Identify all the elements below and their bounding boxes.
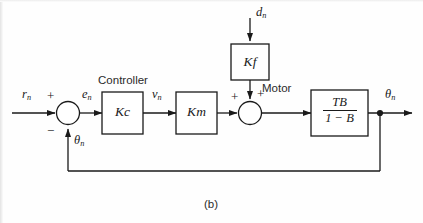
plant-denominator: 1 − B xyxy=(311,111,368,125)
disturbance-input-label: dn xyxy=(256,6,266,19)
error-summing-junction-circle xyxy=(57,102,80,125)
plant-transfer-function: TB 1 − B xyxy=(311,96,368,125)
plant-numerator: TB xyxy=(311,96,368,110)
controller-output-label: vn xyxy=(152,88,162,101)
motor-gain-label: Km xyxy=(176,105,217,119)
reference-input-label: rn xyxy=(22,88,31,101)
disturbance-gain-label: Kf xyxy=(231,55,269,69)
junction1-minus-sign: − xyxy=(47,124,54,137)
figure-container: rn + − en θn Controller Kc vn Km dn Kf +… xyxy=(0,0,423,223)
feedback-signal-label: θn xyxy=(74,134,84,147)
junction2-forward-plus-sign: + xyxy=(231,90,238,103)
error-signal-label: en xyxy=(82,88,92,101)
junction1-plus-sign: + xyxy=(47,89,54,102)
motor-summing-junction-circle xyxy=(239,102,262,125)
controller-gain-label: Kc xyxy=(102,105,143,119)
controller-title: Controller xyxy=(92,74,154,86)
output-label: θn xyxy=(385,88,395,101)
motor-title: Motor xyxy=(262,82,310,94)
figure-caption: (b) xyxy=(191,198,231,210)
